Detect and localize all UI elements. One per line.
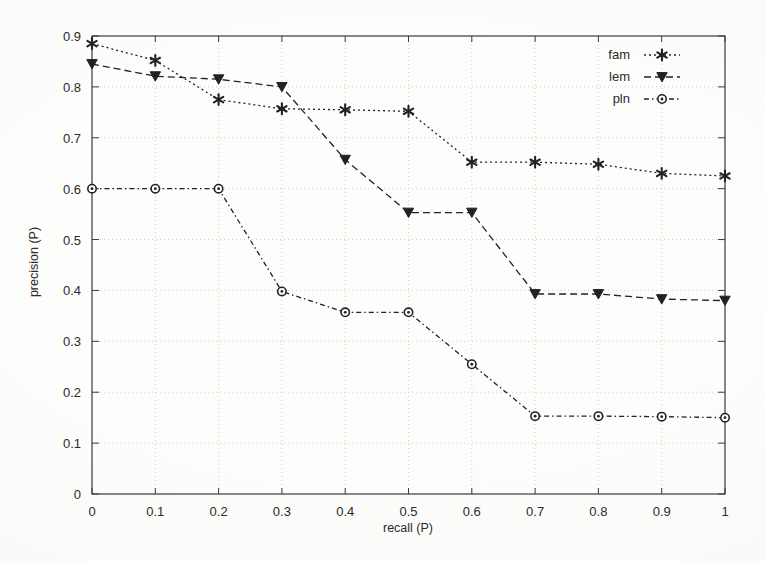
y-tick-label: 0.8 (63, 80, 81, 95)
marker-pln-center (534, 415, 537, 418)
x-tick-labels: 00.10.20.30.40.50.60.70.80.91 (88, 504, 728, 519)
legend-label-pln: pln (613, 91, 630, 106)
x-tick-label: 1 (721, 504, 728, 519)
y-tick-label: 0.3 (63, 334, 81, 349)
y-tick-labels: 00.10.20.30.40.50.60.70.80.9 (63, 29, 81, 502)
marker-pln-center (724, 416, 727, 419)
marker-lem (340, 155, 350, 164)
marker-fam (720, 171, 729, 182)
marker-fam (151, 55, 160, 66)
chart-page: 00.10.20.30.40.50.60.70.80.91 00.10.20.3… (0, 0, 766, 561)
series-line-pln (92, 189, 725, 418)
gridlines (92, 36, 725, 494)
marker-fam (214, 94, 223, 105)
x-tick-label: 0.2 (210, 504, 228, 519)
legend-label-fam: fam (608, 47, 630, 62)
marker-lem (720, 296, 730, 305)
y-tick-label: 0.2 (63, 385, 81, 400)
series-fam (87, 38, 729, 181)
x-tick-label: 0.6 (463, 504, 481, 519)
y-tick-label: 0.4 (63, 283, 81, 298)
series-line-lem (92, 64, 725, 301)
x-tick-label: 0.5 (399, 504, 417, 519)
x-tick-label: 0.8 (589, 504, 607, 519)
marker-pln-center (597, 415, 600, 418)
precision-recall-chart: 00.10.20.30.40.50.60.70.80.91 00.10.20.3… (0, 0, 766, 561)
x-tick-label: 0.4 (336, 504, 354, 519)
marker-pln-center (407, 311, 410, 314)
marker-pln-center (281, 290, 284, 293)
y-tick-label: 0.5 (63, 233, 81, 248)
x-tick-label: 0.1 (146, 504, 164, 519)
x-tick-label: 0.3 (273, 504, 291, 519)
y-tick-label: 0.6 (63, 182, 81, 197)
marker-pln-center (470, 363, 473, 366)
marker-pln-center (154, 187, 157, 190)
x-tick-label: 0.7 (526, 504, 544, 519)
marker-fam (404, 106, 413, 117)
legend-marker-pln-center (661, 98, 664, 101)
marker-pln-center (344, 311, 347, 314)
y-tick-label: 0.1 (63, 436, 81, 451)
y-tick-label: 0.9 (63, 29, 81, 44)
marker-pln-center (660, 415, 663, 418)
marker-pln-center (91, 187, 94, 190)
y-tick-label: 0.7 (63, 131, 81, 146)
x-tick-label: 0 (88, 504, 95, 519)
y-axis-title: precision (P) (27, 227, 41, 297)
x-tick-label: 0.9 (653, 504, 671, 519)
legend-label-lem: lem (609, 69, 630, 84)
chart-legend: famlempln (608, 47, 680, 106)
marker-pln-center (217, 187, 220, 190)
marker-lem (277, 82, 287, 91)
marker-fam (87, 38, 96, 49)
x-axis-title: recall (P) (383, 521, 433, 535)
y-tick-label: 0 (74, 487, 81, 502)
